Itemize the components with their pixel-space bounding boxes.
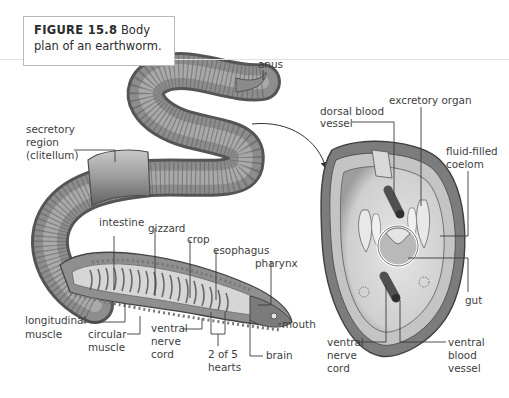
label-secretory-region-2: region: [26, 136, 59, 150]
label-longitudinal-2: muscle: [25, 328, 62, 342]
label-brain: brain: [266, 349, 293, 363]
label-intestine: intestine: [99, 216, 144, 230]
label-secretory-region: secretory: [26, 123, 75, 137]
label-ventral-nerve-cord-3: cord: [151, 348, 174, 362]
label-circular-2: muscle: [88, 341, 125, 355]
label-excretory-organ: excretory organ: [389, 94, 471, 108]
label-clitellum: (clitellum): [26, 149, 79, 163]
label-esophagus: esophagus: [213, 244, 269, 258]
figure-caption: FIGURE 15.8 Body plan of an earthworm.: [23, 16, 175, 66]
label-crop: crop: [187, 233, 210, 247]
label-section-ventral-nerve-cord-2: nerve: [327, 349, 357, 363]
label-dorsal-blood-vessel-2: vessel: [320, 117, 353, 131]
label-fluid-filled-coelom-2: coelom: [446, 158, 484, 172]
label-ventral-nerve-cord: ventral: [151, 322, 188, 336]
label-ventral-blood-vessel-3: vessel: [448, 362, 481, 376]
label-ventral-blood-vessel: ventral: [448, 336, 485, 350]
label-mouth: mouth: [282, 318, 316, 332]
earthworm-figure: FIGURE 15.8 Body plan of an earthworm.: [0, 0, 509, 398]
label-hearts: 2 of 5: [208, 348, 238, 362]
label-gizzard: gizzard: [148, 222, 185, 236]
label-ventral-nerve-cord-2: nerve: [151, 335, 181, 349]
label-section-ventral-nerve-cord-3: cord: [327, 362, 350, 376]
label-ventral-blood-vessel-2: blood: [448, 349, 477, 363]
caption-text-1: Body: [121, 23, 150, 37]
cross-section-illustration: [321, 141, 465, 356]
label-gut: gut: [465, 294, 482, 308]
label-pharynx: pharynx: [255, 257, 298, 271]
label-circular: circular: [88, 328, 126, 342]
label-hearts-2: hearts: [208, 361, 241, 375]
label-section-ventral-nerve-cord: ventral: [327, 336, 364, 350]
label-fluid-filled-coelom: fluid-filled: [446, 145, 498, 159]
worm-body: [50, 71, 292, 330]
label-longitudinal: longitudinal: [25, 314, 86, 328]
label-anus: anus: [258, 58, 283, 72]
figure-number: FIGURE 15.8: [34, 23, 117, 37]
caption-text-2: plan of an earthworm.: [34, 38, 174, 54]
